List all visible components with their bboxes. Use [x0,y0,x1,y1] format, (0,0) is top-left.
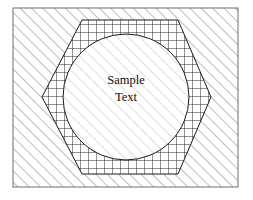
figure-canvas: Sample Text [0,0,253,200]
shape-diagram: Sample Text [0,0,253,200]
sample-text-line-1: Sample [107,73,145,87]
sample-text-line-2: Text [115,90,138,104]
